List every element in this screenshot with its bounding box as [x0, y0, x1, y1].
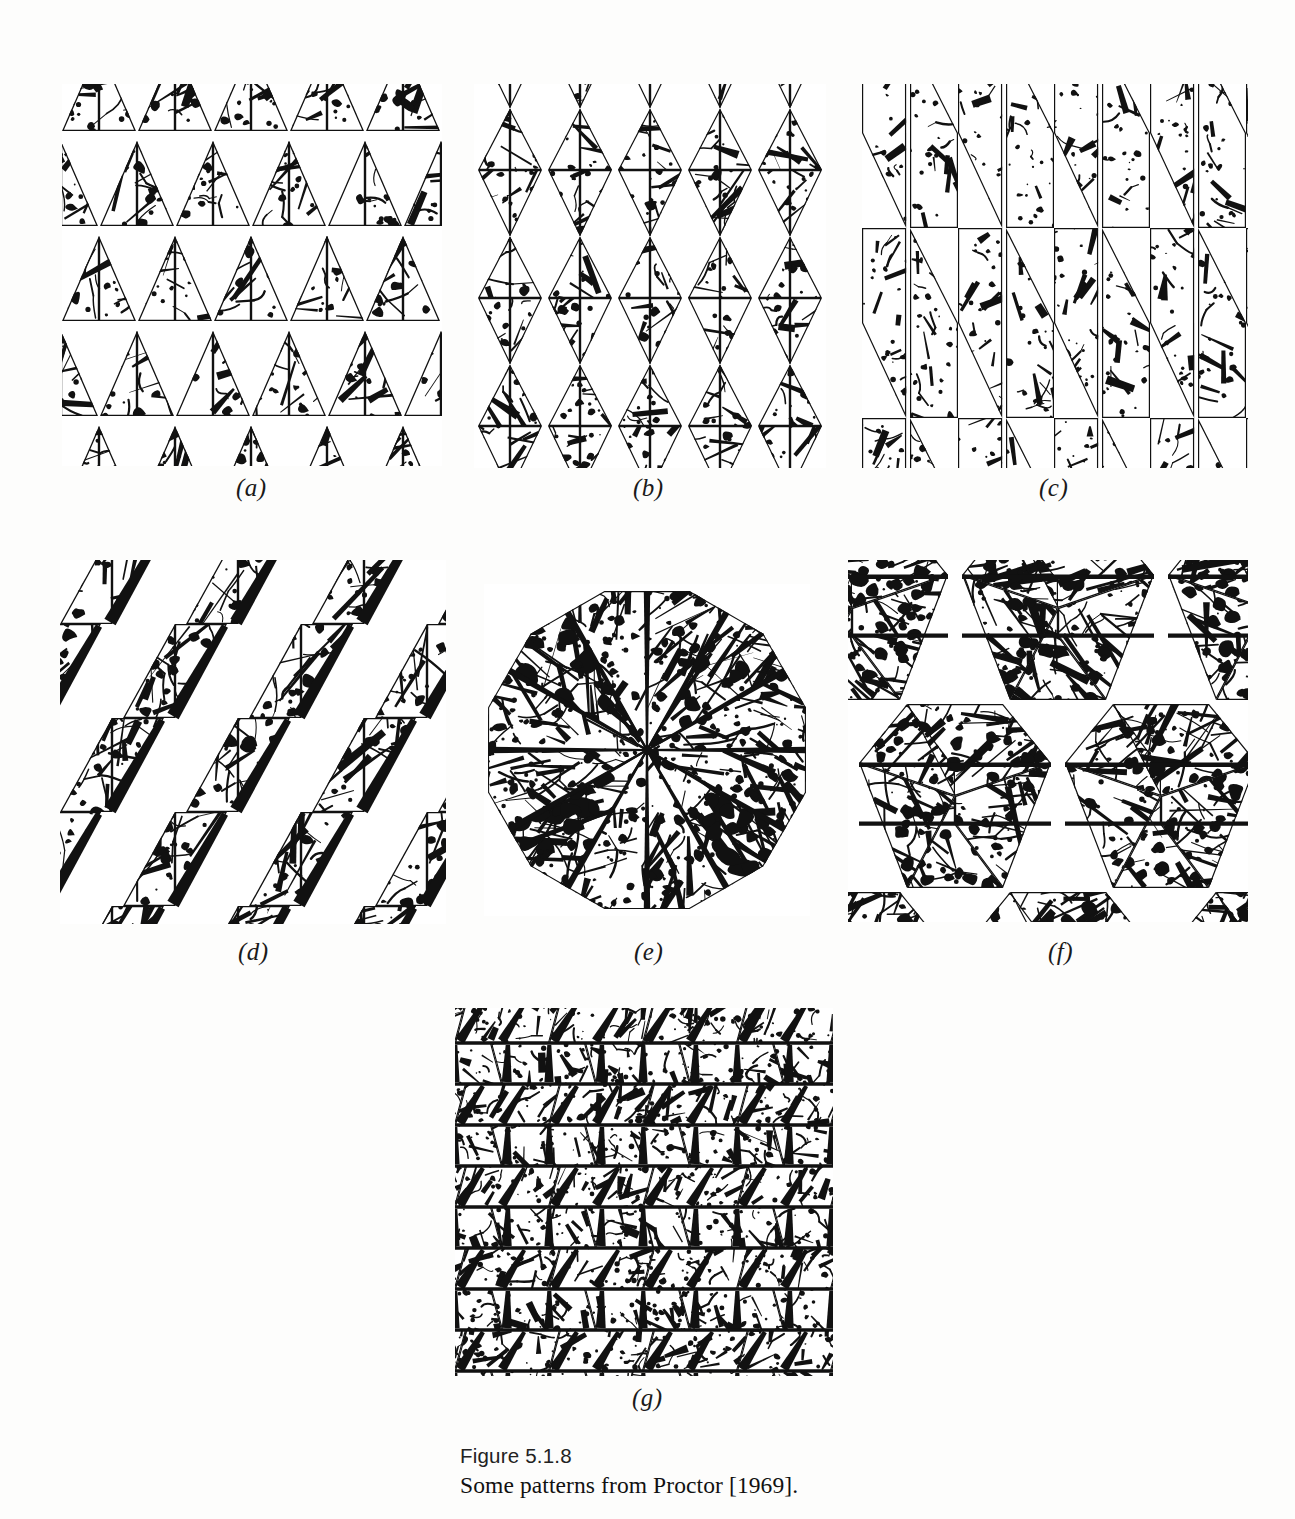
pattern-panel-e	[484, 584, 810, 916]
figure-caption: Figure 5.1.8 Some patterns from Proctor …	[460, 1442, 798, 1500]
panel-label-e: (e)	[634, 938, 663, 966]
panel-label-d: (d)	[238, 938, 269, 966]
pattern-panel-a	[62, 84, 442, 466]
pattern-a-canvas	[62, 84, 442, 466]
pattern-e-canvas	[484, 584, 810, 916]
pattern-g-canvas	[455, 1008, 833, 1376]
panel-label-a: (a)	[236, 474, 267, 502]
pattern-b-canvas	[474, 84, 826, 468]
pattern-f-canvas	[848, 560, 1248, 922]
pattern-c-canvas	[862, 84, 1248, 468]
pattern-panel-f	[848, 560, 1248, 922]
panel-label-b: (b)	[633, 474, 664, 502]
panel-label-c: (c)	[1039, 474, 1068, 502]
pattern-panel-g	[455, 1008, 833, 1376]
pattern-panel-c	[862, 84, 1248, 468]
panel-label-g: (g)	[632, 1384, 663, 1412]
pattern-d-canvas	[60, 560, 446, 924]
figure-page: (a) (b) (c) (d) (e) (f) (g) Figure 5.1.8…	[0, 0, 1295, 1519]
figure-number: Figure 5.1.8	[460, 1442, 798, 1469]
pattern-panel-d	[60, 560, 446, 924]
panel-label-f: (f)	[1048, 938, 1073, 966]
pattern-panel-b	[474, 84, 826, 468]
figure-caption-text: Some patterns from Proctor [1969].	[460, 1470, 798, 1500]
